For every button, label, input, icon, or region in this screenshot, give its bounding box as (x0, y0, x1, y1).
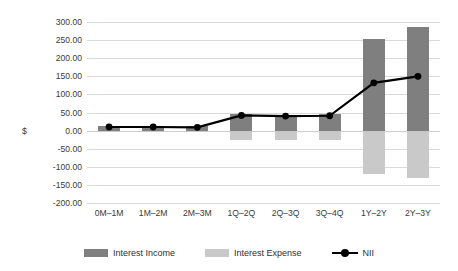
x-axis-tick-label: 1M–2M (131, 207, 175, 223)
gridline (87, 203, 440, 204)
nii-data-point (106, 124, 113, 131)
legend-swatch-icon (205, 249, 229, 257)
legend-label: NII (363, 248, 375, 258)
x-axis-tick-label: 2Y–3Y (396, 207, 440, 223)
y-axis-tick-label: -150.00 (24, 180, 82, 190)
x-axis-tick-labels: 0M–1M1M–2M2M–3M1Q–2Q2Q–3Q3Q–4Q1Y–2Y2Y–3Y (87, 207, 440, 223)
nii-data-point (238, 112, 245, 119)
x-axis-tick-label: 1Q–2Q (219, 207, 263, 223)
y-axis-tick-label: 300.00 (24, 17, 82, 27)
legend-line-marker-icon (332, 249, 358, 257)
x-axis-tick-label: 0M–1M (87, 207, 131, 223)
plot-area (87, 22, 440, 203)
y-axis-tick-label: 250.00 (24, 35, 82, 45)
nii-data-point (282, 113, 289, 120)
legend-item[interactable]: NII (332, 248, 375, 258)
y-axis-tick-label: -50.00 (24, 144, 82, 154)
y-axis-tick-label: 50.00 (24, 108, 82, 118)
x-axis-tick-label: 2Q–3Q (264, 207, 308, 223)
legend-label: Interest Income (113, 248, 175, 258)
x-axis-tick-label: 2M–3M (175, 207, 219, 223)
nii-data-point (150, 124, 157, 131)
y-axis-tick-label: 100.00 (24, 89, 82, 99)
nii-data-point (415, 73, 422, 80)
legend-swatch-icon (84, 249, 108, 257)
nii-data-point (194, 124, 201, 131)
x-axis-tick-label: 1Y–2Y (352, 207, 396, 223)
legend-item[interactable]: Interest Income (84, 248, 175, 258)
y-axis-tick-label: 200.00 (24, 53, 82, 63)
nii-data-point (370, 79, 377, 86)
y-axis-tick-label: 150.00 (24, 71, 82, 81)
y-axis-tick-label: -100.00 (24, 162, 82, 172)
legend-label: Interest Expense (234, 248, 302, 258)
legend-item[interactable]: Interest Expense (205, 248, 302, 258)
y-axis-tick-labels: 300.00250.00200.00150.00100.0050.000.00-… (20, 22, 82, 203)
x-axis-tick-label: 3Q–4Q (308, 207, 352, 223)
chart-legend: Interest IncomeInterest ExpenseNII (0, 243, 458, 263)
nii-data-point (326, 112, 333, 119)
chart-container: $ 300.00250.00200.00150.00100.0050.000.0… (0, 0, 458, 271)
y-axis-tick-label: 0.00 (24, 126, 82, 136)
y-axis-tick-label: -200.00 (24, 198, 82, 208)
nii-line-series (87, 22, 440, 203)
